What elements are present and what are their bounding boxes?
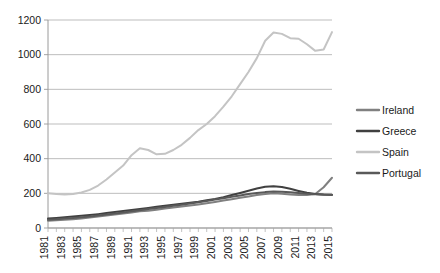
x-axis-tick-label: 1997 xyxy=(172,236,184,260)
x-axis-tick-label: 1981 xyxy=(38,236,50,260)
series-group xyxy=(48,32,332,221)
y-axis-labels: 020040060080010001200 xyxy=(18,14,42,234)
x-axis-tick-label: 2003 xyxy=(222,236,234,260)
x-axis-tick-label: 2001 xyxy=(205,236,217,260)
legend-label-ireland: Ireland xyxy=(382,104,414,116)
legend-label-greece: Greece xyxy=(382,125,417,137)
x-axis-tick-label: 2013 xyxy=(305,236,317,260)
x-axis-tick-label: 2005 xyxy=(238,236,250,260)
x-axis-tick-label: 1995 xyxy=(155,236,167,260)
line-chart: 020040060080010001200 198119831985198719… xyxy=(0,0,440,273)
tick-marks-group xyxy=(44,20,332,232)
y-axis-tick-label: 800 xyxy=(23,83,41,95)
x-axis-tick-label: 1987 xyxy=(88,236,100,260)
y-axis-tick-label: 400 xyxy=(23,152,41,164)
x-axis-tick-label: 2009 xyxy=(272,236,284,260)
legend-label-spain: Spain xyxy=(382,146,409,158)
x-axis-labels: 1981198319851987198919911993199519971999… xyxy=(38,236,334,260)
y-axis-tick-label: 1200 xyxy=(18,14,42,26)
gridlines-group xyxy=(48,20,332,228)
x-axis-tick-label: 1989 xyxy=(105,236,117,260)
y-axis-tick-label: 0 xyxy=(35,222,41,234)
x-axis-tick-label: 1993 xyxy=(138,236,150,260)
series-line-greece xyxy=(48,186,332,218)
x-axis-tick-label: 2007 xyxy=(255,236,267,260)
x-axis-tick-label: 1991 xyxy=(122,236,134,260)
chart-legend: IrelandGreeceSpainPortugal xyxy=(357,104,421,179)
x-axis-tick-label: 2011 xyxy=(289,236,301,259)
legend-label-portugal: Portugal xyxy=(382,167,421,179)
series-line-spain xyxy=(48,32,332,194)
x-axis-tick-label: 1985 xyxy=(71,236,83,260)
x-axis-tick-label: 1999 xyxy=(188,236,200,260)
y-axis-tick-label: 600 xyxy=(23,118,41,130)
x-axis-tick-label: 1983 xyxy=(55,236,67,260)
y-axis-tick-label: 200 xyxy=(23,187,41,199)
chart-canvas: 020040060080010001200 198119831985198719… xyxy=(0,0,440,273)
y-axis-tick-label: 1000 xyxy=(18,48,42,60)
x-axis-tick-label: 2015 xyxy=(322,236,334,260)
